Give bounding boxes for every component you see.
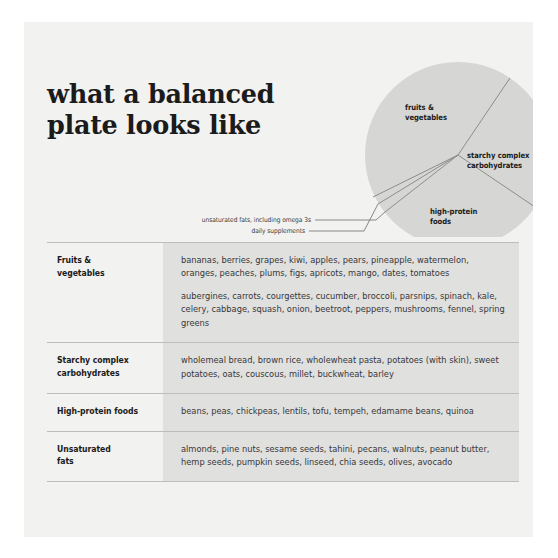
table-row-label-fruits-vegetables: Fruits & vegetables — [47, 243, 163, 342]
pie-slice-label-fruits-vegetables-line2: vegetables — [405, 113, 447, 122]
table-row: Starchy complex carbohydrates wholemeal … — [47, 342, 519, 393]
pie-callout-label-unsaturated-fats: unsaturated fats, including omega 3s — [202, 216, 311, 224]
food-groups-table: Fruits & vegetables bananas, berries, gr… — [47, 242, 519, 482]
pie-slice-label-starchy-carbohydrates-line2: carbohydrates — [467, 161, 522, 170]
pie-slice-label-high-protein-foods-line2: foods — [430, 217, 451, 226]
table-cell-paragraph: aubergines, carrots, courgettes, cucumbe… — [181, 290, 505, 330]
leader-daily-supplements — [309, 204, 378, 231]
table-row-label-high-protein-foods: High-protein foods — [47, 394, 163, 430]
table-row-label-unsaturated-fats: Unsaturated fats — [47, 432, 163, 482]
pie-chart-svg: fruits & vegetables starchy complex carb… — [24, 22, 533, 237]
table-cell-paragraph: wholemeal bread, brown rice, wholewheat … — [181, 354, 505, 381]
leader-unsaturated-fats — [315, 212, 385, 220]
table-cell-paragraph: beans, peas, chickpeas, lentils, tofu, t… — [181, 405, 505, 418]
pie-slice-label-starchy-carbohydrates-line1: starchy complex — [467, 151, 530, 160]
pie-slice-label-fruits-vegetables-line1: fruits & — [405, 103, 434, 112]
table-row-body-fruits-vegetables: bananas, berries, grapes, kiwi, apples, … — [163, 243, 519, 342]
pie-callout-leaders — [309, 204, 385, 231]
table-row: High-protein foods beans, peas, chickpea… — [47, 393, 519, 430]
table-row: Fruits & vegetables bananas, berries, gr… — [47, 242, 519, 342]
pie-callout-label-daily-supplements: daily supplements — [251, 227, 305, 235]
table-row-label-starchy-carbohydrates: Starchy complex carbohydrates — [47, 343, 163, 393]
pie-slice-label-starchy-carbohydrates: starchy complex carbohydrates — [467, 151, 530, 170]
table-cell-paragraph: bananas, berries, grapes, kiwi, apples, … — [181, 254, 505, 281]
table-row-body-starchy-carbohydrates: wholemeal bread, brown rice, wholewheat … — [163, 343, 519, 393]
balanced-plate-pie-chart: fruits & vegetables starchy complex carb… — [24, 22, 533, 237]
table-row-body-high-protein-foods: beans, peas, chickpeas, lentils, tofu, t… — [163, 394, 519, 430]
table-cell-paragraph: almonds, pine nuts, sesame seeds, tahini… — [181, 443, 505, 470]
infographic-poster: what a balanced plate looks like — [24, 22, 533, 537]
table-row: Unsaturated fats almonds, pine nuts, ses… — [47, 431, 519, 483]
table-row-body-unsaturated-fats: almonds, pine nuts, sesame seeds, tahini… — [163, 432, 519, 482]
pie-slice-label-high-protein-foods-line1: high-protein — [430, 207, 477, 216]
